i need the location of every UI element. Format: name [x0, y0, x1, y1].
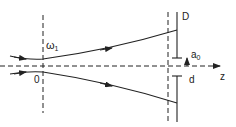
beam-upper-edge — [10, 30, 177, 59]
screen-label: D — [182, 11, 189, 22]
waist-label: ω1 — [46, 39, 59, 52]
origin-label: 0 — [34, 74, 40, 85]
axis-label: z — [220, 71, 225, 82]
gaussian-beam-diagram: ω1 0 D a0 d z — [0, 0, 236, 127]
aperture-screen — [172, 12, 182, 122]
distance-label: d — [189, 74, 195, 85]
aperture-label: a0 — [191, 49, 201, 61]
